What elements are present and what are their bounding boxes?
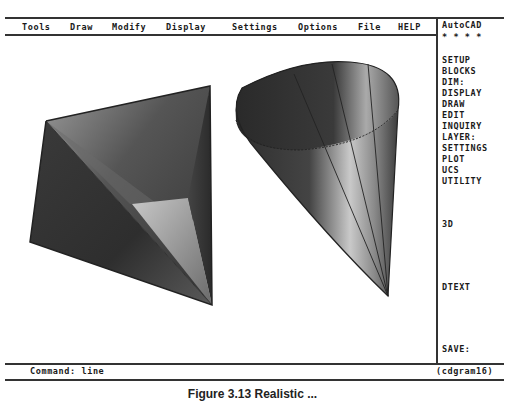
figure-caption: Figure 3.13 Realistic ... <box>0 387 505 401</box>
menu-settings[interactable]: Settings <box>232 22 278 32</box>
menu-modify[interactable]: Modify <box>112 22 146 32</box>
drawing-canvas[interactable] <box>0 36 436 363</box>
side-item-save[interactable]: SAVE: <box>442 344 471 355</box>
command-top-border <box>5 363 504 365</box>
command-prompt[interactable]: Command: line <box>30 366 104 376</box>
side-menu-divider <box>436 17 438 365</box>
side-item-dim[interactable]: DIM: <box>442 77 465 88</box>
side-item-display[interactable]: DISPLAY <box>442 88 482 99</box>
menu-file[interactable]: File <box>358 22 381 32</box>
side-item-ucs[interactable]: UCS <box>442 165 459 176</box>
menu-tools[interactable]: Tools <box>22 22 51 32</box>
menu-display[interactable]: Display <box>166 22 206 32</box>
menu-help[interactable]: HELP <box>398 22 421 32</box>
side-item-edit[interactable]: EDIT <box>442 110 465 121</box>
side-item-blocks[interactable]: BLOCKS <box>442 66 476 77</box>
pyramid-shape[interactable] <box>30 86 212 305</box>
side-item-layer[interactable]: LAYER: <box>442 132 476 143</box>
side-item-3d[interactable]: 3D <box>442 219 453 230</box>
side-item-dtext[interactable]: DTEXT <box>442 282 471 293</box>
side-item-plot[interactable]: PLOT <box>442 154 465 165</box>
menu-draw[interactable]: Draw <box>70 22 93 32</box>
side-menu-title[interactable]: AutoCAD <box>442 20 482 31</box>
side-item-settings[interactable]: SETTINGS <box>442 143 488 154</box>
side-item-draw[interactable]: DRAW <box>442 99 465 110</box>
side-item-inquiry[interactable]: INQUIRY <box>442 121 482 132</box>
command-bottom-border <box>5 379 504 381</box>
side-menu-stars[interactable]: * * * * <box>442 32 482 43</box>
top-border <box>5 17 504 19</box>
drawing-name: (cdgram16) <box>436 366 493 376</box>
menu-options[interactable]: Options <box>298 22 338 32</box>
cone-shape[interactable] <box>236 62 399 296</box>
side-item-utility[interactable]: UTILITY <box>442 176 482 187</box>
side-item-setup[interactable]: SETUP <box>442 55 471 66</box>
